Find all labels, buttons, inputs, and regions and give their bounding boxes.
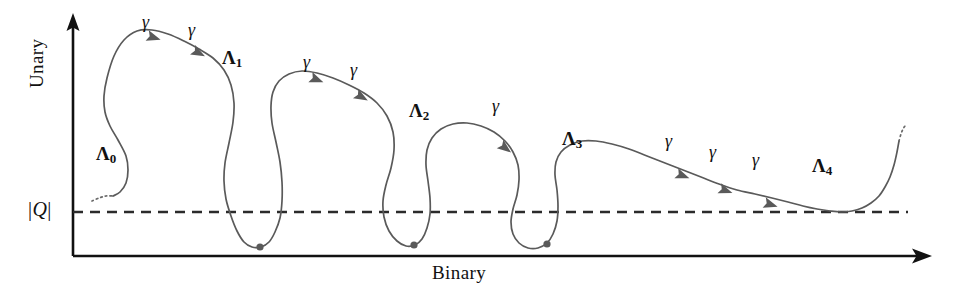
lambda-0-label: Λ0: [96, 143, 116, 167]
threshold-label: |Q|: [28, 198, 52, 221]
flow-diagram-figure: Unary Binary |Q| Λ0Λ1Λ2Λ3Λ4 γγγγγγγγ: [0, 0, 971, 297]
lambda-2-symbol: Λ: [409, 100, 423, 121]
figure-canvas: [0, 0, 971, 297]
gamma-4-label: γ: [350, 60, 357, 81]
threshold-label-q: Q: [32, 198, 47, 220]
flow-curve-group: [92, 30, 905, 249]
gamma-1-label: γ: [142, 12, 149, 33]
lambda-3-subscript: 3: [576, 136, 583, 151]
lambda-0-symbol: Λ: [96, 143, 110, 164]
gamma-6-label: γ: [665, 131, 672, 152]
gamma-3-label: γ: [303, 52, 310, 73]
x-axis-label: Binary: [432, 262, 486, 284]
gamma-5-label: γ: [492, 96, 499, 117]
lambda-4-symbol: Λ: [812, 155, 826, 176]
lambda-1-label: Λ1: [222, 47, 242, 71]
lambda-2-minimum: [410, 241, 417, 248]
lambda-2-label: Λ2: [409, 100, 429, 124]
y-axis-label: Unary: [26, 39, 48, 88]
lambda-3-label: Λ3: [562, 128, 582, 152]
gamma-8-label: γ: [752, 150, 759, 171]
gamma-7-arrow: [717, 183, 734, 198]
lambda-4-label: Λ4: [812, 155, 832, 179]
lambda-1-minimum: [256, 243, 263, 250]
gamma-7-label: γ: [709, 142, 716, 163]
lambda-3-symbol: Λ: [562, 128, 576, 149]
lambda-2-subscript: 2: [423, 108, 430, 123]
lambda-4-subscript: 4: [826, 163, 833, 178]
threshold-bar-right: |: [47, 198, 51, 220]
lambda-0-subscript: 0: [110, 151, 117, 166]
gamma-2-label: γ: [188, 20, 195, 41]
lambda-1-symbol: Λ: [222, 47, 236, 68]
lambda-4-dotted-tail: [899, 126, 905, 141]
lambda-1-subscript: 1: [236, 55, 243, 70]
lambda-3-minimum: [543, 240, 550, 247]
lambda-0-dotted-tail: [92, 196, 113, 201]
